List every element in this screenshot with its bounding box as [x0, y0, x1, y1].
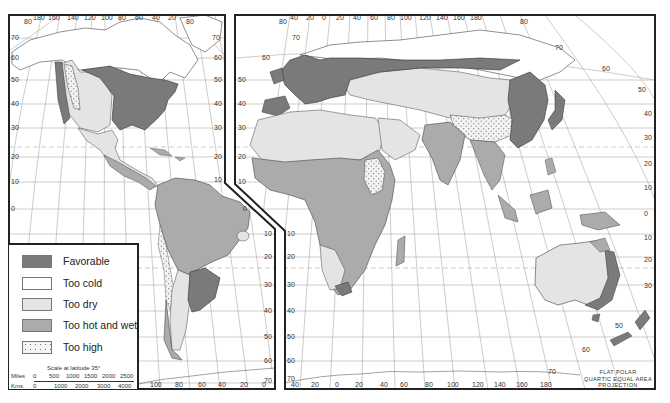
too-dry-swatch: [22, 298, 52, 311]
svg-text:40: 40: [291, 381, 299, 388]
legend-label: Too cold: [63, 277, 102, 289]
scale-bar: [34, 381, 134, 382]
legend-label: Too high: [63, 341, 103, 353]
svg-text:70: 70: [548, 368, 556, 375]
projection-note: FLAT POLAR QUARTIC EQUAL AREA PROJECTION: [583, 369, 653, 389]
legend-item-too-high: Too high: [22, 339, 103, 355]
svg-text:80: 80: [186, 18, 194, 25]
lat-label: 80: [24, 18, 32, 25]
svg-text:80: 80: [520, 18, 528, 25]
svg-text:60: 60: [287, 357, 295, 364]
svg-text:40: 40: [214, 100, 222, 107]
svg-text:60: 60: [198, 381, 206, 388]
svg-text:10: 10: [644, 184, 652, 191]
svg-text:40: 40: [380, 381, 388, 388]
svg-text:50: 50: [615, 322, 623, 329]
too-hot-wet-swatch: [22, 319, 52, 332]
svg-text:30: 30: [11, 124, 19, 131]
svg-text:60: 60: [135, 14, 143, 21]
svg-text:120: 120: [472, 381, 484, 388]
svg-text:20: 20: [644, 256, 652, 263]
svg-text:30: 30: [214, 124, 222, 131]
svg-text:30: 30: [644, 282, 652, 289]
svg-text:20: 20: [214, 153, 222, 160]
legend-item-favorable: Favorable: [22, 253, 110, 269]
favorable-swatch: [22, 255, 52, 268]
svg-text:10: 10: [264, 230, 272, 237]
svg-text:100: 100: [150, 381, 162, 388]
svg-text:70: 70: [11, 34, 19, 41]
svg-text:10: 10: [11, 178, 19, 185]
svg-text:80: 80: [425, 381, 433, 388]
svg-text:60: 60: [582, 346, 590, 353]
svg-text:120: 120: [84, 14, 96, 21]
svg-text:20: 20: [311, 381, 319, 388]
svg-text:140: 140: [436, 14, 448, 21]
svg-text:20: 20: [11, 153, 19, 160]
svg-text:0: 0: [243, 205, 247, 212]
svg-text:50: 50: [238, 76, 246, 83]
svg-text:60: 60: [11, 54, 19, 61]
svg-text:0: 0: [644, 210, 648, 217]
scale-miles: Miles 0 500 1000 1500 2000 2500: [11, 373, 25, 379]
legend-label: Favorable: [63, 255, 110, 267]
svg-text:40: 40: [11, 100, 19, 107]
svg-text:50: 50: [11, 76, 19, 83]
svg-text:20: 20: [264, 253, 272, 260]
svg-text:60: 60: [262, 54, 270, 61]
svg-text:20: 20: [287, 253, 295, 260]
svg-text:20: 20: [238, 153, 246, 160]
legend-item-too-hot-wet: Too hot and wet: [22, 317, 137, 333]
svg-text:160: 160: [48, 14, 60, 21]
svg-text:100: 100: [447, 381, 459, 388]
svg-text:20: 20: [240, 381, 248, 388]
svg-text:100: 100: [101, 14, 113, 21]
svg-text:40: 40: [287, 307, 295, 314]
svg-text:60: 60: [602, 65, 610, 72]
svg-text:0: 0: [11, 205, 15, 212]
svg-text:10: 10: [287, 230, 295, 237]
svg-text:40: 40: [152, 14, 160, 21]
svg-text:50: 50: [638, 86, 646, 93]
legend-item-too-cold: Too cold: [22, 275, 102, 291]
svg-text:120: 120: [419, 14, 431, 21]
svg-text:60: 60: [214, 54, 222, 61]
svg-text:30: 30: [264, 281, 272, 288]
svg-text:40: 40: [218, 381, 226, 388]
svg-text:40: 40: [238, 100, 246, 107]
svg-text:60: 60: [264, 357, 272, 364]
legend-item-too-dry: Too dry: [22, 296, 97, 312]
eastern-hemisphere-panel: [230, 0, 670, 403]
world-map: 80 180 160 140 120 100 80 60 40 20 80 70…: [0, 0, 670, 403]
svg-text:20: 20: [168, 14, 176, 21]
svg-text:40: 40: [353, 14, 361, 21]
svg-text:40: 40: [290, 14, 298, 21]
svg-text:180: 180: [33, 14, 45, 21]
svg-text:10: 10: [214, 176, 222, 183]
svg-text:100: 100: [400, 14, 412, 21]
legend-label: Too dry: [63, 298, 97, 310]
svg-text:60: 60: [400, 381, 408, 388]
svg-text:70: 70: [212, 34, 220, 41]
legend-label: Too hot and wet: [63, 319, 137, 331]
svg-text:20: 20: [355, 381, 363, 388]
svg-text:30: 30: [644, 134, 652, 141]
svg-text:180: 180: [470, 14, 482, 21]
svg-text:50: 50: [214, 76, 222, 83]
svg-text:20: 20: [644, 160, 652, 167]
svg-text:140: 140: [494, 381, 506, 388]
svg-text:180: 180: [540, 381, 552, 388]
svg-text:60: 60: [370, 14, 378, 21]
svg-text:160: 160: [516, 381, 528, 388]
svg-text:80: 80: [387, 14, 395, 21]
svg-text:0: 0: [262, 381, 266, 388]
svg-text:40: 40: [644, 110, 652, 117]
svg-text:40: 40: [264, 307, 272, 314]
svg-text:160: 160: [453, 14, 465, 21]
map-legend: Favorable Too cold Too dry Too hot and w…: [9, 243, 139, 389]
too-cold-swatch: [22, 277, 52, 290]
svg-text:80: 80: [279, 18, 287, 25]
scale-title: Scale at latitude 35°: [47, 365, 100, 371]
svg-text:30: 30: [238, 124, 246, 131]
svg-text:80: 80: [175, 381, 183, 388]
